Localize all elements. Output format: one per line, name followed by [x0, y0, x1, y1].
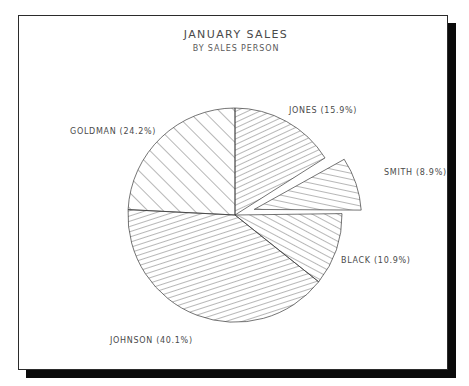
slice-label-jones: JONES (15.9%): [288, 106, 357, 115]
slice-label-smith: SMITH (8.9%): [384, 168, 447, 177]
pie-slice-goldman[interactable]: [128, 108, 235, 215]
slice-label-black: BLACK (10.9%): [341, 256, 411, 265]
chart-page: JANUARY SALES BY SALES PERSON JONES (15.…: [0, 0, 469, 386]
pie-chart-svg: JANUARY SALES BY SALES PERSON JONES (15.…: [0, 0, 469, 386]
slice-label-johnson: JOHNSON (40.1%): [109, 336, 193, 345]
slice-label-goldman: GOLDMAN (24.2%): [70, 127, 156, 136]
chart-subtitle: BY SALES PERSON: [193, 44, 280, 53]
chart-title: JANUARY SALES: [183, 28, 289, 41]
